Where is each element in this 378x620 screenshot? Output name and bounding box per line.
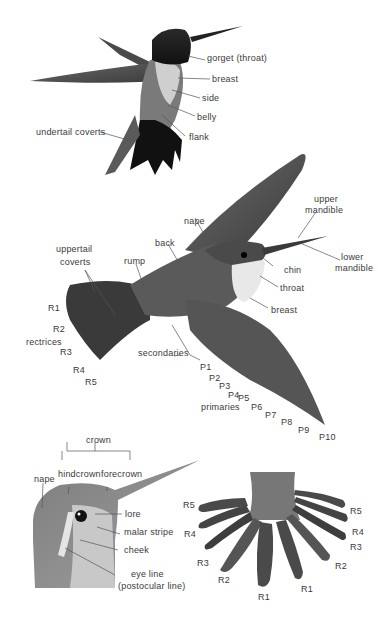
label-flank: flank [189,132,209,142]
label-tail-R2-left: R2 [218,575,230,585]
label-crown: crown [86,435,111,445]
label-rump: rump [124,256,145,266]
label-R1: R1 [48,303,60,313]
label-P6: P6 [251,402,262,412]
tail-R1-left [257,522,273,587]
head-detail [33,460,200,588]
label-eye-line-1: eye line [131,569,164,579]
label-uppertail-coverts-1: uppertail [56,244,92,254]
label-tail-R2-right: R2 [335,561,347,571]
label-nape: nape [184,216,205,226]
label-back: back [155,238,175,248]
label-rectrices: rectrices [26,337,62,347]
label-nape: nape [34,474,55,484]
label-tail-R5-left: R5 [183,500,195,510]
label-throat: throat [280,283,305,293]
label-tail-R3-left: R3 [197,558,209,568]
hover-bird-bill [190,26,243,42]
label-breast: breast [271,305,298,315]
label-P9: P9 [298,425,309,435]
label-side: side [202,93,219,103]
label-cheek: cheek [124,545,149,555]
anatomy-diagram: gorget (throat) breast side belly flank … [0,0,378,620]
fly-bird-throat [232,259,265,303]
label-P8: P8 [281,417,292,427]
label-upper-mandible-1: upper [314,194,338,204]
label-lower-mandible-2: mandible [335,263,373,273]
hover-bird-head [152,29,191,65]
label-belly: belly [197,112,217,122]
label-R3: R3 [60,347,72,357]
label-R2: R2 [53,324,65,334]
label-R5: R5 [85,377,97,387]
label-gorget: gorget (throat) [207,53,267,63]
head-eye-highlight [78,513,81,516]
label-lower-mandible-1: lower [341,252,364,262]
label-primaries: primaries [201,402,240,412]
label-uppertail-coverts-2: coverts [60,257,91,267]
label-upper-mandible-2: mandible [305,205,343,215]
label-R4: R4 [73,365,85,375]
label-tail-R3-right: R3 [350,542,362,552]
label-forecrown: forecrown [101,469,142,479]
label-tail-R5-right: R5 [350,506,362,516]
label-lore: lore [125,509,141,519]
head-shape [33,460,200,588]
label-eye-line-2: (postocular line) [118,581,185,591]
label-tail-R1-left: R1 [258,592,270,602]
fly-bird-eye [241,252,247,258]
label-tail-R1-right: R1 [301,584,313,594]
label-tail-R4-right: R4 [352,527,364,537]
label-P7: P7 [265,410,276,420]
label-undertail-coverts: undertail coverts [36,127,106,137]
label-P1: P1 [200,362,211,372]
tail-base [248,472,300,520]
fly-bird-bill [262,236,328,255]
head-eye [75,510,87,522]
label-malar-stripe: malar stripe [124,527,173,537]
label-P10: P10 [319,432,336,442]
label-tail-R4-left: R4 [184,529,196,539]
label-hindcrown: hindcrown [58,469,101,479]
label-chin: chin [284,265,301,275]
label-secondaries: secondaries [138,348,189,358]
tail-spread [198,472,347,587]
label-breast: breast [212,74,239,84]
